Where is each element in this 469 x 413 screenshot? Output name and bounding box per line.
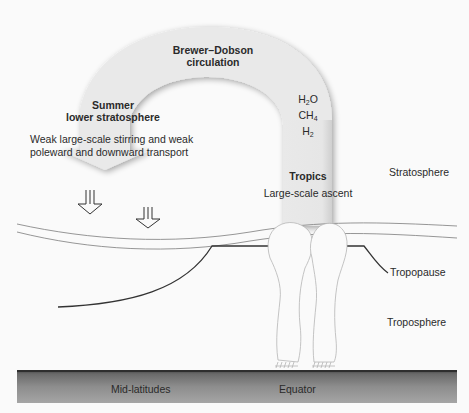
- species-h2: H2: [288, 125, 328, 141]
- tropics-label: Tropics: [280, 170, 336, 182]
- down-arrow-icon: [78, 190, 102, 214]
- trace-species-list: H2O CH4 H2: [288, 93, 328, 141]
- species-ch4: CH4: [288, 109, 328, 125]
- transport-description: Weak large-scale stirring and weak polew…: [30, 133, 193, 159]
- circulation-label: Brewer–Dobson circulation: [168, 44, 258, 68]
- ascent-label: Large-scale ascent: [258, 187, 358, 199]
- equator-label: Equator: [279, 383, 316, 395]
- convective-cloud-icon: [268, 223, 347, 368]
- mid-latitudes-label: Mid-latitudes: [111, 383, 171, 395]
- circulation-label-line1: Brewer–Dobson: [168, 44, 258, 56]
- ground-surface: [17, 370, 457, 403]
- tropopause-double-line: [17, 223, 457, 249]
- tropopause-label: Tropopause: [390, 266, 446, 278]
- summer-stratosphere-label: Summer lower stratosphere: [58, 99, 168, 123]
- transport-text-line2: poleward and downward transport: [30, 146, 193, 159]
- troposphere-label: Troposphere: [387, 316, 446, 328]
- transport-text-line1: Weak large-scale stirring and weak: [30, 133, 193, 146]
- summer-label-line2: lower stratosphere: [58, 111, 168, 123]
- species-h2o: H2O: [288, 93, 328, 109]
- diagram-stage: Brewer–Dobson circulation Summer lower s…: [0, 0, 469, 413]
- down-arrow-icon: [136, 207, 160, 228]
- stratosphere-label: Stratosphere: [389, 166, 449, 178]
- circulation-label-line2: circulation: [168, 56, 258, 68]
- summer-label-line1: Summer: [58, 99, 168, 111]
